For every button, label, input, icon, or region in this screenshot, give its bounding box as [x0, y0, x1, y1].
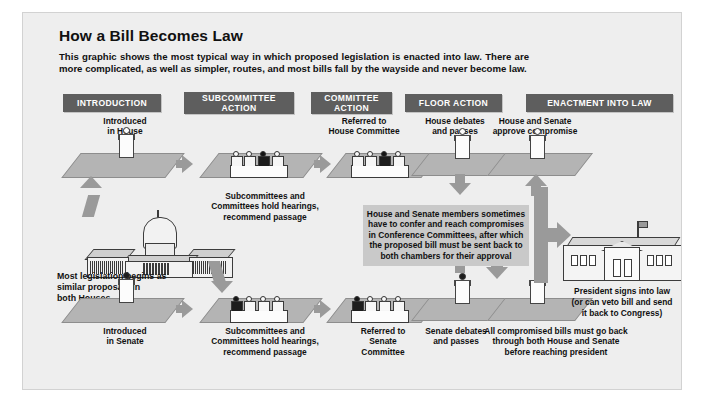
phase-bar-introduction: INTRODUCTION	[63, 94, 161, 112]
senate-seated-head-3	[260, 296, 266, 302]
house-seated-head-3	[260, 151, 266, 157]
house-to-conference-arrow-head	[449, 183, 471, 195]
house-committee-desk-2	[351, 165, 409, 178]
house-seated-head-2	[246, 151, 252, 157]
house-committee-seats-1	[230, 156, 286, 166]
house-committee-seats-2	[351, 156, 407, 166]
capitol-to-senate-arrow-head	[211, 281, 233, 293]
house-person-arms-2	[454, 135, 471, 141]
house-seated-head-4	[274, 151, 280, 157]
senate-arrow-2	[320, 300, 331, 318]
senate-person-head-1	[123, 272, 130, 279]
white-house-caption: President signs into law (or can veto bi…	[542, 286, 682, 318]
conference-committee-note: House and Senate members sometimes have …	[363, 205, 529, 266]
approve-person-arms	[529, 135, 546, 141]
house-committee-desk-1	[230, 165, 288, 178]
senate-seated-head-6	[367, 296, 373, 302]
house-person-head-2	[459, 128, 466, 135]
white-house-icon	[563, 227, 681, 285]
senate-committee-desk-2	[351, 310, 409, 323]
senate-step5-label: All compromised bills must go back throu…	[461, 326, 651, 357]
house-person-arms-1	[118, 134, 135, 140]
senate-person-head-2	[459, 273, 466, 280]
house-seated-head-8	[395, 151, 401, 157]
return-to-chambers-arrow-head	[486, 267, 508, 279]
approve-person-head	[534, 128, 541, 135]
intro-paragraph: This graphic shows the most typical way …	[59, 51, 529, 76]
senate-person-arms-1	[118, 279, 135, 285]
house-seated-head-7	[381, 151, 387, 157]
senate-seated-head-7	[381, 296, 387, 302]
senate-arrow-1	[182, 300, 193, 318]
house-arrow-1	[182, 155, 193, 173]
senate-committee-seats-1	[230, 301, 286, 311]
senate-step1-label: Introduced in Senate	[86, 326, 164, 347]
house-person-head-1	[123, 127, 130, 134]
senate-seated-head-2	[246, 296, 252, 302]
phase-bar-subcommittee-action: SUBCOMMITTEE ACTION	[184, 92, 294, 114]
senate-person-arms-2	[454, 280, 471, 286]
capitol-to-house-arrow-head	[80, 176, 102, 188]
senate-step2-label: Subcommittees and Committees hold hearin…	[195, 326, 335, 357]
phase-bar-floor-action: FLOOR ACTION	[405, 94, 502, 112]
house-arrow-2	[320, 155, 331, 173]
senate-seated-head-1	[233, 296, 239, 302]
senate-committee-desk-1	[230, 310, 288, 323]
senate-seated-head-5	[354, 296, 360, 302]
house-seated-head-1	[233, 151, 239, 157]
senate-committee-seats-2	[351, 301, 407, 311]
page-title: How a Bill Becomes Law	[59, 27, 243, 45]
conference-to-approve-arrow-head	[525, 174, 547, 186]
house-seated-head-6	[367, 151, 373, 157]
house-step3-label: Referred to House Committee	[311, 116, 417, 137]
capitol-to-house-arrow-shaft	[82, 195, 100, 217]
senate-seated-head-4	[274, 296, 280, 302]
infographic-poster: How a Bill Becomes Law This graphic show…	[22, 12, 682, 390]
phase-bar-enactment-into-law: ENACTMENT INTO LAW	[526, 94, 673, 112]
senate-seated-head-8	[395, 296, 401, 302]
phase-bar-committee-action: COMMITTEE ACTION	[311, 92, 392, 114]
house-seated-head-5	[354, 151, 360, 157]
